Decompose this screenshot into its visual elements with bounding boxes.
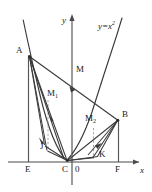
label-F: F [115, 165, 120, 174]
dot-A [28, 55, 31, 58]
label-A: A [16, 46, 23, 55]
label-M2: M2 [85, 114, 96, 123]
segment-AK [30, 57, 65, 160]
curve-equation-base: y=x [98, 21, 112, 31]
label-curve-equation: y=x2 [98, 20, 115, 31]
label-x-axis: x [140, 166, 144, 175]
label-y-axis: y [62, 16, 66, 25]
label-M1: M1 [47, 89, 58, 98]
label-E: E [25, 165, 31, 174]
curve-equation-exponent: 2 [112, 20, 115, 26]
label-M1-base: M [47, 88, 55, 98]
chords-from-B [68, 121, 118, 161]
label-M2-sub: 2 [93, 118, 96, 124]
label-M2-base: M [85, 113, 93, 123]
label-origin: 0 [75, 165, 80, 174]
label-M: M [76, 65, 84, 74]
geometry-figure: A B M M1 M2 J K E C F 0 x y y=x2 [0, 0, 152, 192]
dot-B [116, 119, 119, 122]
label-K: K [99, 150, 106, 159]
label-M1-sub: 1 [55, 93, 58, 99]
segment-BC [68, 121, 118, 161]
dot-C [66, 159, 69, 162]
chords-from-A [30, 57, 68, 161]
segment-AJ2 [30, 57, 48, 151]
label-C: C [62, 165, 68, 174]
label-B: B [122, 110, 128, 119]
label-J: J [40, 142, 44, 151]
segment-AB [30, 57, 118, 121]
